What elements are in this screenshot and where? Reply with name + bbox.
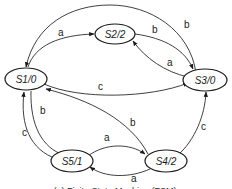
edge-label-s4-s3: c [201, 121, 206, 132]
edge-label-s5-s4: a [104, 132, 110, 143]
state-s2: S2/2 [95, 24, 135, 44]
edge-label-s1-s2: a [58, 27, 64, 38]
edge-label-s5-s1: c [22, 127, 27, 138]
diagram-caption: (a) Finite State Machine (FSM) [53, 186, 176, 189]
edge-label-s3-s2: a [167, 57, 173, 68]
edge-label-s4-s5: a [131, 173, 137, 184]
state-s4: S4/2 [145, 150, 187, 172]
fsm-diagram: b a b a c b b c a a c S1/0 S2/2 S3/0 S4/… [0, 0, 232, 189]
edge-label-s2-s3: b [152, 24, 158, 35]
edge-label-s1-s5: b [40, 105, 46, 116]
state-label-s1: S1/0 [16, 74, 37, 85]
edge-label-s1-s3: c [98, 81, 103, 92]
state-s3: S3/0 [183, 69, 227, 91]
state-label-s2: S2/2 [105, 29, 126, 40]
state-label-s5: S5/1 [62, 156, 83, 167]
state-s1: S1/0 [5, 68, 47, 90]
edge-s2-s3-b [135, 34, 193, 69]
edge-s1-s3-c [44, 83, 188, 95]
edge-label-s3-s1: b [184, 19, 190, 30]
state-label-s3: S3/0 [195, 75, 216, 86]
edge-s4-s5-a [90, 167, 150, 176]
edge-s3-s2-a [133, 41, 188, 77]
state-label-s4: S4/2 [156, 156, 177, 167]
edge-s5-s4-a [88, 146, 145, 156]
state-s5: S5/1 [51, 150, 93, 172]
edge-label-s4-s1: b [130, 117, 136, 128]
